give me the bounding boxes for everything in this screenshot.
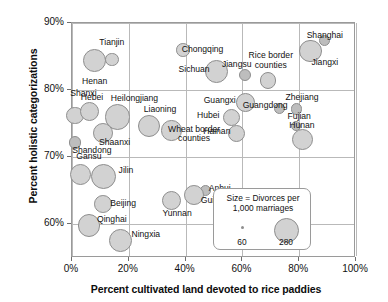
data-point-label: Hubei <box>158 111 258 121</box>
x-axis-tick-mark <box>128 257 129 261</box>
data-point-label: Jilin <box>76 166 176 176</box>
data-point-label: Jiangxi <box>275 58 375 68</box>
y-axis-tick-label: 90% <box>28 16 64 27</box>
x-axis-tick-mark <box>355 257 356 261</box>
data-point-label: Guangdong <box>215 101 315 111</box>
size-legend-small-label: 60 <box>227 237 257 247</box>
x-axis-tick-label: 80% <box>276 263 320 274</box>
size-legend-large-label: 280 <box>271 237 301 247</box>
y-axis-title: Percent holistic categorizations <box>27 31 39 221</box>
x-axis-tick-label: 100% <box>333 263 377 274</box>
data-point-bubble <box>80 102 99 121</box>
data-point-label: Zhejiang <box>252 93 352 103</box>
size-legend-title-line2: 1,000 marriages <box>214 203 312 213</box>
x-axis-tick-label: 20% <box>106 263 150 274</box>
x-axis-tick-mark <box>241 257 242 261</box>
size-legend-title: Size = Divorces per 1,000 marriages <box>214 193 312 213</box>
data-point-bubble <box>292 129 313 150</box>
x-axis-tick-mark <box>71 257 72 261</box>
data-point-label: Henan <box>45 77 145 87</box>
data-point-label: Gansu <box>39 152 139 162</box>
x-axis-tick-label: 0% <box>49 263 93 274</box>
data-point-label: Ningxia <box>96 230 196 240</box>
data-point-bubble <box>105 53 119 67</box>
size-legend: Size = Divorces per 1,000 marriages 60 2… <box>213 188 311 250</box>
data-point-label: Shanghai <box>275 31 375 41</box>
x-axis-tick-mark <box>298 257 299 261</box>
data-point-label: Tianjin <box>62 38 162 48</box>
y-axis-tick-label: 60% <box>28 217 64 228</box>
x-axis-title: Percent cultivated land devoted to rice … <box>56 283 356 295</box>
size-legend-title-line1: Size = Divorces per <box>214 193 312 203</box>
data-point-bubble <box>83 49 106 72</box>
x-axis-tick-mark <box>185 257 186 261</box>
data-point-bubble <box>260 72 277 89</box>
data-point-label: Hunan <box>252 121 352 131</box>
data-point-label: Beijing <box>73 199 173 209</box>
gridline-horizontal <box>72 23 354 24</box>
bubble-chart: Percent holistic categorizations Percent… <box>0 0 388 302</box>
x-axis-tick-label: 60% <box>219 263 263 274</box>
x-axis-tick-label: 40% <box>163 263 207 274</box>
size-legend-small-bubble <box>241 226 244 229</box>
